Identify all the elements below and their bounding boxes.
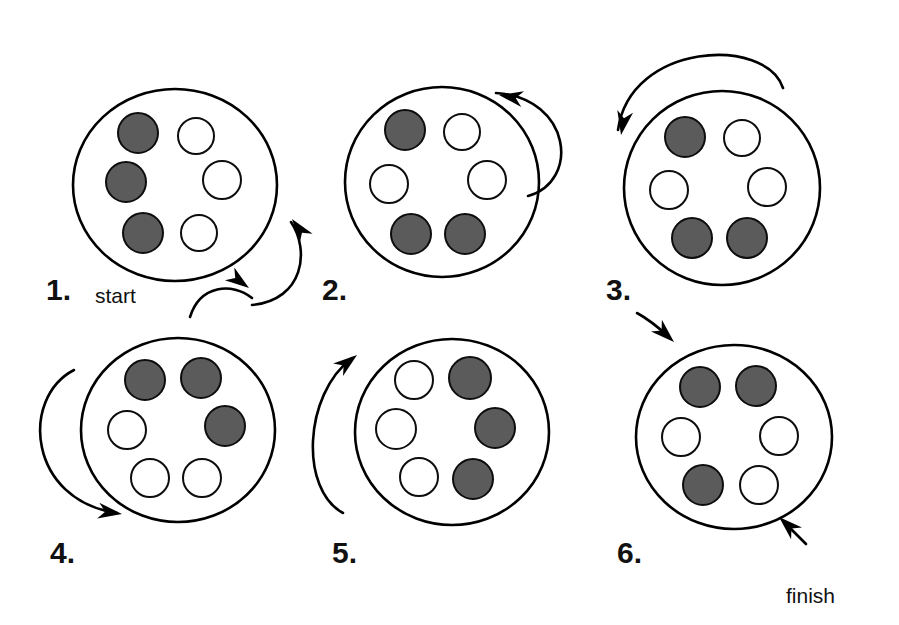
step-2-label: 2. bbox=[322, 273, 347, 306]
step-group-2: 2. bbox=[322, 87, 539, 306]
step-5-to-step-6-arrow bbox=[637, 313, 679, 348]
step-6-token-top-right-filled bbox=[736, 366, 776, 406]
step-4-token-top-right-filled bbox=[181, 358, 221, 398]
step-6-token-bottom-right-empty bbox=[740, 466, 778, 504]
step-3-token-bottom-right-filled bbox=[727, 218, 767, 258]
step-group-4: 4. bbox=[50, 338, 275, 569]
step-1-token-right-empty bbox=[203, 161, 241, 199]
step-2-token-bottom-left-filled bbox=[391, 214, 431, 254]
step-3-token-right-empty bbox=[748, 168, 786, 206]
step-1-token-top-left-filled bbox=[118, 113, 158, 153]
step-5-token-bottom-left-empty bbox=[400, 458, 438, 496]
step-1-token-bottom-right-empty bbox=[181, 215, 217, 251]
sequence-diagram: 1.2.3.4.5.6. start finish bbox=[0, 0, 899, 625]
step-1-token-left-filled bbox=[106, 162, 146, 202]
step-6-label: 6. bbox=[617, 536, 642, 569]
step-4-to-step-5-arrow-curve bbox=[313, 358, 352, 513]
diagram-canvas: 1.2.3.4.5.6. start finish bbox=[0, 0, 899, 625]
step-3-token-left-empty bbox=[650, 171, 688, 209]
step-group-1: 1. bbox=[46, 89, 277, 306]
step-4-label: 4. bbox=[50, 536, 75, 569]
step-4-token-top-left-filled bbox=[125, 360, 165, 400]
step-5-token-bottom-right-filled bbox=[453, 459, 493, 499]
step-2-token-left-empty bbox=[370, 165, 408, 203]
step-2-token-bottom-right-filled bbox=[445, 214, 485, 254]
step-1-label: 1. bbox=[46, 273, 71, 306]
step-1-token-top-right-empty bbox=[178, 118, 214, 154]
finish-label: finish bbox=[786, 584, 835, 607]
step-1-to-step-2-arrow-head-icon bbox=[286, 214, 313, 243]
step-5-label: 5. bbox=[332, 536, 357, 569]
step-3-token-top-right-empty bbox=[724, 120, 760, 156]
step-4-token-bottom-right-empty bbox=[183, 459, 221, 497]
start-label: start bbox=[95, 284, 136, 307]
step-3-token-top-left-filled bbox=[665, 117, 705, 157]
step-3-to-step-4-arrow-head-icon bbox=[97, 503, 123, 522]
step-3-label: 3. bbox=[606, 273, 631, 306]
step-1-container-circle bbox=[73, 89, 277, 281]
steps-layer: 1.2.3.4.5.6. bbox=[46, 87, 832, 569]
step-4-token-bottom-left-empty bbox=[131, 459, 169, 497]
step-group-3: 3. bbox=[606, 91, 820, 306]
step-2-token-top-right-empty bbox=[444, 114, 480, 150]
step-5-token-top-right-filled bbox=[449, 357, 491, 399]
step-2-token-top-left-filled bbox=[385, 110, 425, 150]
step-6-token-bottom-left-filled bbox=[683, 465, 723, 505]
step-2-token-right-empty bbox=[468, 161, 506, 199]
step-group-5: 5. bbox=[332, 339, 549, 569]
step-group-6: 6. bbox=[617, 345, 832, 569]
step-5-token-right-filled bbox=[475, 408, 515, 448]
step-6-token-right-empty bbox=[760, 417, 798, 455]
step-5-token-top-left-empty bbox=[395, 361, 433, 399]
step-6-token-top-left-filled bbox=[680, 367, 720, 407]
step-5-token-left-empty bbox=[376, 409, 416, 449]
step-4-token-left-empty bbox=[108, 411, 146, 449]
step-6-token-left-empty bbox=[662, 418, 700, 456]
step-3-token-bottom-left-filled bbox=[672, 218, 712, 258]
step-4-token-right-filled bbox=[205, 406, 245, 446]
start-arrow-curve bbox=[190, 289, 252, 317]
step-1-token-bottom-left-filled bbox=[123, 213, 163, 253]
